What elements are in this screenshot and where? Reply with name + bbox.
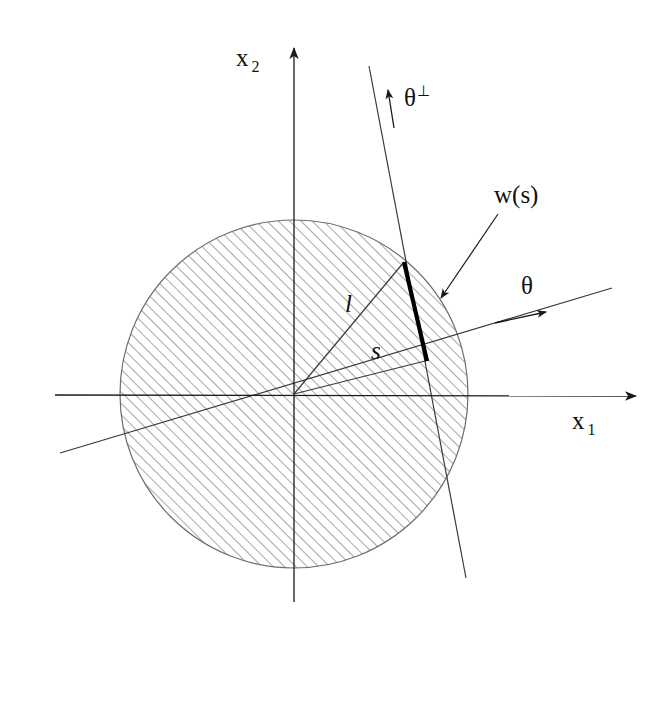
label-offset-s: s [371,337,381,365]
theta-direction-arrow [495,312,546,323]
figure-canvas: x2 x1 θ⊥ θ w(s) l s [0,0,669,718]
theta-perp-direction-arrow [388,90,394,128]
axis-label-x2-base: x [236,44,249,71]
chord-geometry-diagram [0,0,669,718]
axis-label-x1-subscript: 1 [588,421,596,438]
axis-label-x1: x1 [572,407,593,435]
ws-leader-line [441,214,498,298]
label-theta-perp-superscript: ⊥ [417,83,430,99]
axis-label-x2: x2 [236,44,257,72]
label-theta-perp-base: θ [404,84,416,111]
label-theta-perp: θ⊥ [404,84,429,112]
axis-label-x1-base: x [572,407,585,434]
axis-label-x2-subscript: 2 [252,58,260,75]
label-chord-width-ws: w(s) [494,181,538,209]
label-half-chord-l: l [345,290,352,318]
label-theta: θ [521,272,533,300]
